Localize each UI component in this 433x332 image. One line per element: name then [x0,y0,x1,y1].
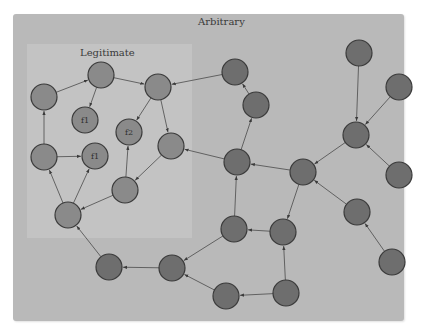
graph-node [290,159,316,185]
node-circle [158,133,184,159]
node-circle [386,162,412,188]
node-circle [88,62,114,88]
edge-B-to-C [114,78,145,84]
edge-C-to-E [161,100,168,133]
node-label: f1 [91,152,99,161]
graph-node [346,40,372,66]
node-circle [96,254,122,280]
graph-node [158,133,184,159]
edge-X-to-Q [284,246,286,280]
edge-E-to-G [135,155,161,180]
node-circle [159,255,185,281]
edge-K-to-E [185,149,225,159]
graph-node [31,144,57,170]
graph-node [55,202,81,228]
graph-node [243,92,269,118]
graph-node-f2: f2 [116,119,142,145]
node-label: f2 [125,128,133,137]
edge-R-to-K [235,176,237,216]
edge-P-to-O [366,145,389,167]
edge-O-to-L [314,142,345,164]
node-circle [343,122,369,148]
edge-S-to-L [314,180,346,204]
graph-node [386,74,412,100]
graph-node [222,59,248,85]
graph-node [221,216,247,242]
edge-M-to-O [357,66,359,121]
node-circle [31,144,57,170]
nodes-layer: f1f2f1 [31,40,412,309]
graph-node [31,84,57,110]
graph-node-f1: f1 [72,107,98,133]
edge-R-to-U [184,236,223,261]
edge-Q-to-R [248,230,270,231]
edge-N-to-O [365,97,390,125]
edge-G-to-H [81,195,113,209]
edge-U-to-V [123,267,159,268]
edge-B-to-F1a [90,87,97,107]
edge-G-to-F2 [126,146,128,177]
node-circle [221,216,247,242]
graph-node [213,283,239,309]
graph-node [88,62,114,88]
edge-T-to-S [365,223,385,251]
edge-C-to-F2 [137,98,151,120]
node-circle [31,84,57,110]
edge-W-to-U [184,274,214,290]
node-circle [386,74,412,100]
edge-J-to-I [243,84,250,94]
edge-K-to-J [241,118,251,149]
edge-A-to-B [56,80,88,92]
node-circle [224,149,250,175]
graph-node [386,162,412,188]
node-circle [344,199,370,225]
edge-V-to-H [77,226,101,257]
graph-node [343,122,369,148]
graph-node [273,280,299,306]
node-circle [290,159,316,185]
edge-H-to-D [49,170,63,203]
graph-node [145,74,171,100]
graph-node [112,177,138,203]
graph-node [96,254,122,280]
graph-canvas: f1f2f1 [0,0,433,332]
graph-node [379,249,405,275]
node-circle [346,40,372,66]
edge-X-to-W [240,294,273,296]
node-circle [379,249,405,275]
edges-layer [44,66,390,295]
node-circle [222,59,248,85]
node-circle [273,280,299,306]
graph-node [159,255,185,281]
node-circle [243,92,269,118]
graph-node-f1: f1 [82,143,108,169]
node-circle [213,283,239,309]
graph-node [270,219,296,245]
node-circle [270,219,296,245]
node-label: f1 [81,116,89,125]
edge-I-to-C [172,74,222,84]
edge-L-to-K [251,164,290,170]
edge-L-to-Q [287,184,298,218]
node-circle [112,177,138,203]
graph-node [344,199,370,225]
graph-node [224,149,250,175]
node-circle [145,74,171,100]
edge-H-to-F1b [73,169,89,203]
node-circle [55,202,81,228]
